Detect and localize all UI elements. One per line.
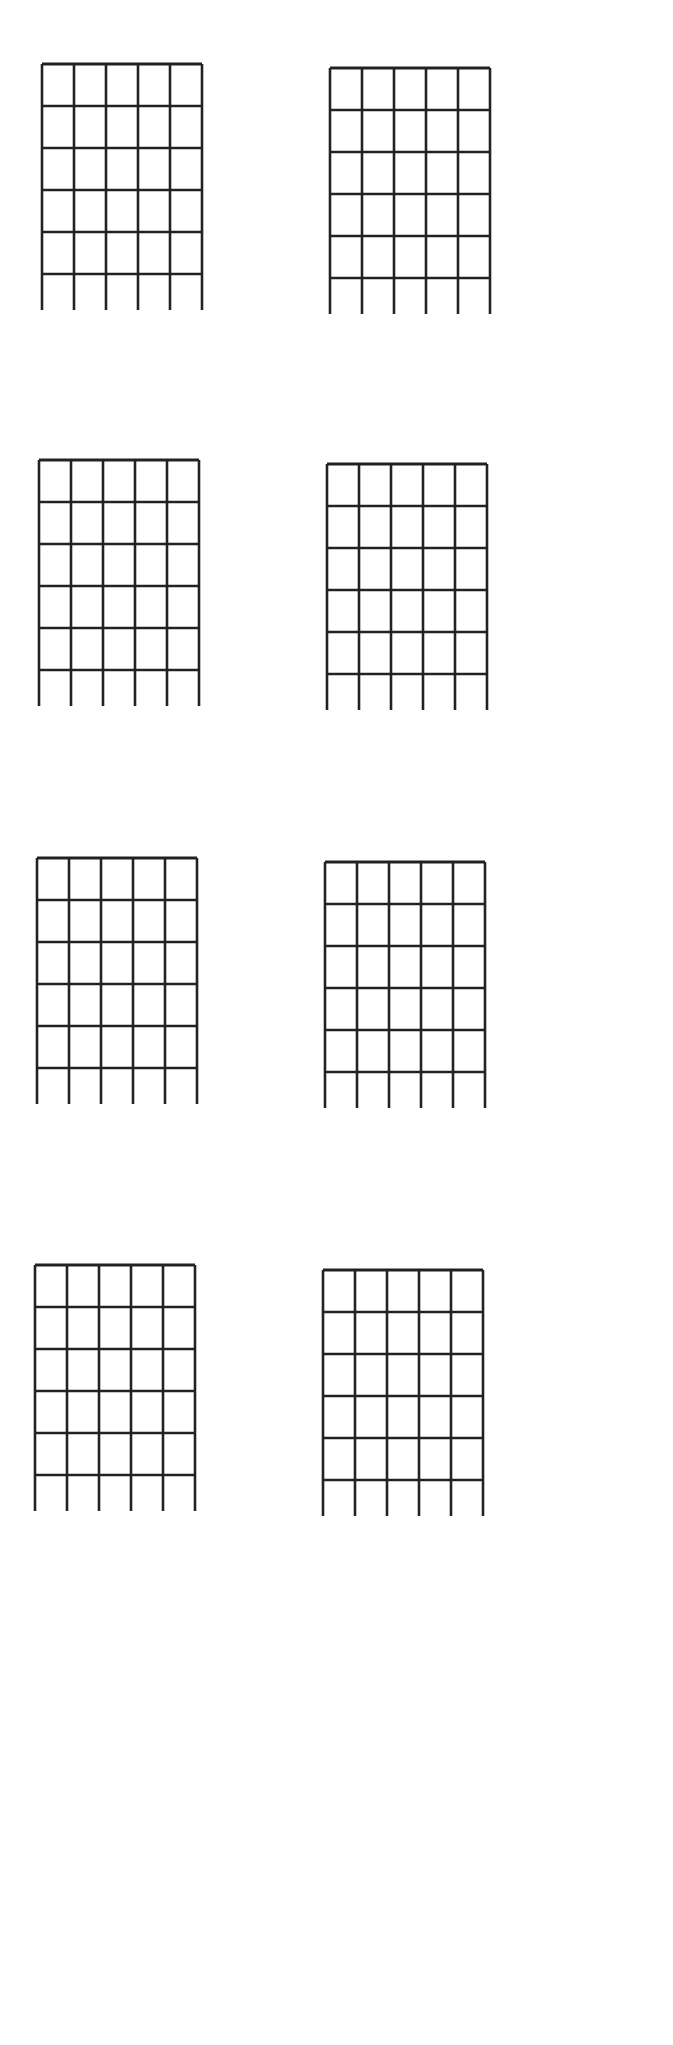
chord-diagram-4 xyxy=(325,462,489,712)
chord-diagram-8 xyxy=(321,1268,485,1518)
fretboard-grid xyxy=(325,462,489,712)
fretboard-grid xyxy=(40,62,204,312)
chord-diagram-6 xyxy=(323,860,487,1110)
fretboard-grid xyxy=(321,1268,485,1518)
fretboard-grid xyxy=(33,1263,197,1513)
chord-diagram-1 xyxy=(40,62,204,312)
chord-diagram-2 xyxy=(328,66,492,316)
fretboard-grid xyxy=(328,66,492,316)
fretboard-grid xyxy=(35,856,199,1106)
chord-diagram-7 xyxy=(33,1263,197,1513)
fretboard-grid xyxy=(37,458,201,708)
fretboard-grid xyxy=(323,860,487,1110)
chord-diagram-5 xyxy=(35,856,199,1106)
chord-diagram-3 xyxy=(37,458,201,708)
